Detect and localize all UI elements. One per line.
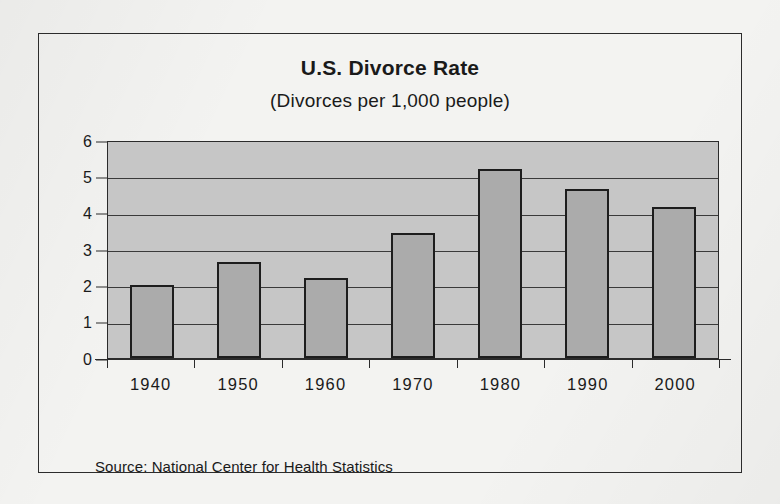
bar[interactable] (652, 207, 696, 358)
plot-area (107, 141, 719, 359)
bar[interactable] (565, 189, 609, 358)
y-axis-tick-mark (96, 214, 107, 215)
x-axis-tick-mark (107, 359, 108, 368)
y-axis-tick: 2 (39, 286, 107, 287)
x-axis-tick-label: 1990 (544, 375, 631, 394)
y-axis-tick-label: 5 (83, 168, 92, 186)
x-axis-tick-mark (719, 359, 720, 368)
bar-slot (457, 142, 544, 358)
y-axis-tick: 1 (39, 322, 107, 323)
x-axis-tick-mark (632, 359, 633, 368)
bar[interactable] (217, 262, 261, 358)
y-axis-tick-mark (96, 323, 107, 324)
x-axis-tick-label: 2000 (632, 375, 719, 394)
x-axis-tick-label: 1970 (369, 375, 456, 394)
y-axis: 0123456 (39, 141, 107, 359)
plot-wrap (107, 141, 719, 359)
y-axis-tick-label: 3 (83, 241, 92, 259)
x-axis-tick-label: 1960 (282, 375, 369, 394)
y-axis-tick-mark (96, 286, 107, 287)
y-axis-tick-mark (96, 177, 107, 178)
x-axis-tick-mark (369, 359, 370, 368)
x-axis-tick-mark (457, 359, 458, 368)
bar-slot (369, 142, 456, 358)
x-axis-labels: 1940195019601970198019902000 (107, 375, 719, 394)
y-axis-tick: 6 (39, 141, 107, 142)
y-axis-tick-label: 0 (83, 350, 92, 368)
y-axis-tick: 5 (39, 177, 107, 178)
chart-subtitle: (Divorces per 1,000 people) (39, 90, 741, 112)
bar-slot (544, 142, 631, 358)
x-axis-tick-label: 1950 (194, 375, 281, 394)
bar[interactable] (304, 278, 348, 358)
bar[interactable] (478, 169, 522, 358)
x-axis-tick-mark (194, 359, 195, 368)
bar-slot (282, 142, 369, 358)
y-axis-tick-label: 6 (83, 132, 92, 150)
chart-frame: U.S. Divorce Rate (Divorces per 1,000 pe… (38, 33, 742, 473)
y-axis-tick-mark (96, 250, 107, 251)
x-axis-tick-label: 1980 (457, 375, 544, 394)
x-axis-ticks (107, 359, 719, 368)
y-axis-tick-label: 4 (83, 205, 92, 223)
bar[interactable] (130, 285, 174, 358)
bar-slot (108, 142, 195, 358)
bar-slot (631, 142, 718, 358)
y-axis-tick: 4 (39, 213, 107, 214)
chart-title: U.S. Divorce Rate (39, 56, 741, 80)
source-caption: Source: National Center for Health Stati… (95, 458, 393, 475)
bar-series (108, 142, 718, 358)
x-axis-tick-mark (544, 359, 545, 368)
y-axis-tick-label: 2 (83, 277, 92, 295)
y-axis-tick-label: 1 (83, 314, 92, 332)
y-axis-tick-mark (96, 141, 107, 142)
x-axis-tick-label: 1940 (107, 375, 194, 394)
bar[interactable] (391, 233, 435, 358)
bar-slot (195, 142, 282, 358)
x-axis-tick-mark (282, 359, 283, 368)
y-axis-tick: 3 (39, 250, 107, 251)
